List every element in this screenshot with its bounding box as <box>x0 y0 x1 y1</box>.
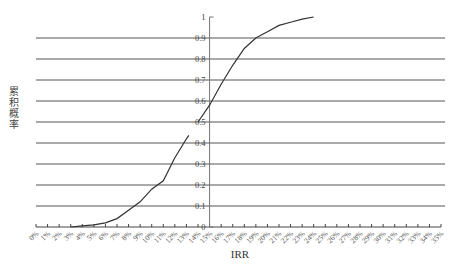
y-tick-label: 0.7 <box>195 75 206 85</box>
y-tick-label: 0.1 <box>195 201 206 211</box>
y-tick-label: 0 <box>201 222 205 232</box>
y-tick-label: 0.8 <box>195 54 206 64</box>
cumulative-probability-chart: 0%1%2%3%4%5%6%7%8%9%10%11%12%13%14%15%16… <box>0 0 469 270</box>
x-tick-label: 35% <box>429 229 445 245</box>
cumulative-probability-line <box>198 17 314 122</box>
x-axis: 0%1%2%3%4%5%6%7%8%9%10%11%12%13%14%15%16… <box>27 224 445 245</box>
y-tick-label: 0.3 <box>195 159 206 169</box>
x-axis-title: IRR <box>231 248 250 260</box>
y-tick-label: 0.6 <box>195 96 206 106</box>
gridlines <box>36 38 445 206</box>
cumulative-probability-line <box>71 135 189 227</box>
y-tick-label: 0.2 <box>195 180 206 190</box>
y-tick-label: 0.9 <box>195 33 206 43</box>
y-tick-label: 1 <box>201 12 205 22</box>
y-tick-label: 0.4 <box>195 138 206 148</box>
